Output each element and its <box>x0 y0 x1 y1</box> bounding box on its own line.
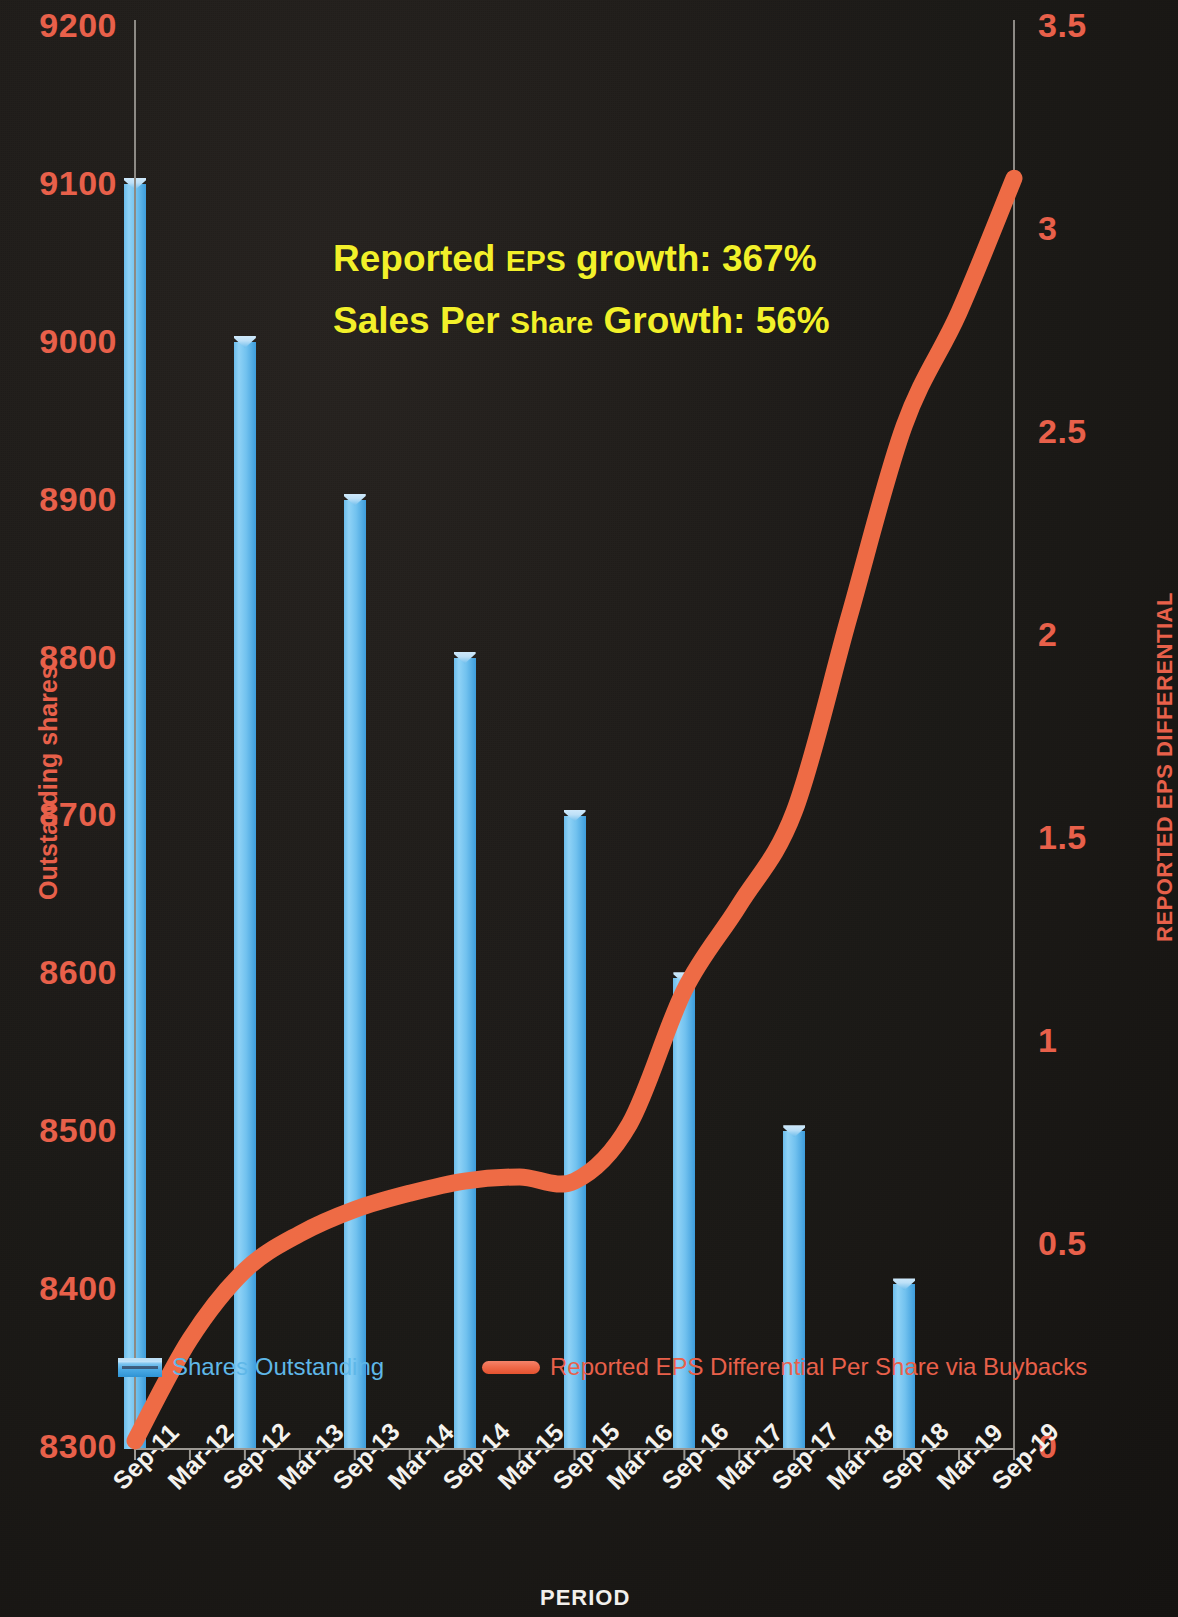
annotation-eps-growth-part2: EPS <box>506 244 566 277</box>
legend-item-shares-outstanding[interactable]: Shares Outstanding <box>118 1353 384 1381</box>
annotation-sps-growth-part3: Growth: 56% <box>593 300 829 341</box>
chart-canvas: Outstanding shares REPORTED EPS DIFFEREN… <box>0 0 1178 1617</box>
annotation-eps-growth-part3: growth: 367% <box>566 238 817 279</box>
annotation-sales-per-share-growth: Sales Per Share Growth: 56% <box>333 300 830 342</box>
annotation-sps-growth-part1: Sales Per <box>333 300 510 341</box>
annotation-eps-growth: Reported EPS growth: 367% <box>333 238 817 280</box>
legend-label-eps-differential: Reported EPS Differential Per Share via … <box>550 1353 1087 1381</box>
legend-label-shares-outstanding: Shares Outstanding <box>172 1353 384 1381</box>
legend-item-eps-differential[interactable]: Reported EPS Differential Per Share via … <box>482 1353 1087 1381</box>
annotation-sps-growth-part2: Share <box>510 306 593 339</box>
annotation-eps-growth-part1: Reported <box>333 238 506 279</box>
line-series-eps-differential <box>135 178 1014 1441</box>
legend-bar-swatch-icon <box>118 1358 162 1377</box>
legend-line-swatch-icon <box>482 1361 540 1374</box>
